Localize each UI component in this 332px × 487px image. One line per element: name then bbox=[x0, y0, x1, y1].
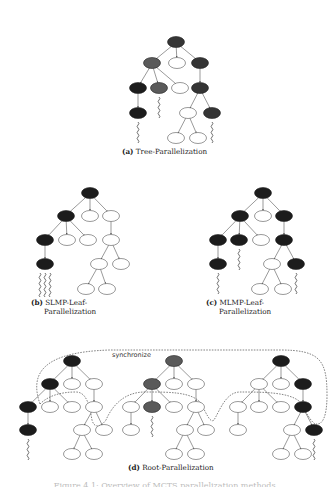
rollout-squiggle bbox=[44, 273, 46, 297]
tree-edge bbox=[283, 435, 290, 449]
tree-node-white bbox=[275, 284, 292, 295]
tree-node-white bbox=[180, 108, 197, 119]
tree-node-black bbox=[276, 235, 293, 246]
tree-node-white bbox=[188, 449, 205, 460]
caption-a-label: (a) bbox=[122, 147, 133, 156]
caption-b-title-line2: Parallelization bbox=[31, 307, 96, 316]
tree-edge bbox=[274, 269, 281, 284]
tree-node-dark bbox=[204, 108, 221, 119]
tree-edge bbox=[100, 269, 105, 284]
rollout-squiggle bbox=[217, 273, 219, 294]
tree-edge bbox=[294, 435, 301, 449]
rollout-squiggle bbox=[151, 416, 153, 437]
tree-node-white bbox=[273, 449, 290, 460]
tree-node-gray bbox=[166, 356, 183, 367]
tree-node-white bbox=[264, 259, 281, 270]
tree-node-black bbox=[210, 259, 227, 270]
tree-node-white bbox=[230, 402, 247, 413]
tree-edge bbox=[294, 412, 301, 425]
caption-c: (c) MLMP-Leaf- Parallelization bbox=[206, 298, 271, 316]
tree-node-dark bbox=[168, 37, 185, 48]
tree-node-white bbox=[273, 402, 290, 413]
tree-node-white bbox=[64, 379, 81, 390]
tree-node-gray bbox=[144, 402, 161, 413]
tree-edge bbox=[88, 269, 97, 284]
tree-node-black bbox=[20, 402, 37, 413]
tree-edge bbox=[180, 45, 197, 59]
tree-edge bbox=[262, 269, 270, 284]
tree-edge bbox=[96, 412, 102, 425]
tree-edge bbox=[53, 365, 69, 380]
tree-edge bbox=[140, 68, 149, 84]
tree-edge bbox=[93, 197, 108, 212]
tree-node-white bbox=[169, 58, 186, 69]
tree-node-white bbox=[64, 402, 81, 413]
tree-node-dark bbox=[192, 83, 209, 94]
tree-node-black bbox=[64, 356, 81, 367]
tree-edge bbox=[153, 68, 157, 83]
tree-edge bbox=[286, 245, 294, 259]
tree-node-white bbox=[103, 211, 120, 222]
caption-c-label: (c) bbox=[206, 298, 217, 307]
tree-d-left bbox=[20, 356, 113, 461]
tree-node-black bbox=[255, 188, 272, 199]
tree-d-right bbox=[230, 356, 323, 461]
synchronize-label: synchronize bbox=[112, 351, 151, 359]
tree-edge bbox=[284, 365, 300, 380]
tree-node-white bbox=[80, 235, 97, 246]
tree-edge bbox=[198, 412, 204, 425]
tree-edge bbox=[262, 365, 278, 380]
tree-c bbox=[210, 188, 305, 295]
rollout-squiggle bbox=[27, 439, 29, 460]
tree-edge bbox=[178, 118, 186, 133]
tree-edge bbox=[155, 365, 171, 380]
caption-c-title-line2: Parallelization bbox=[206, 307, 271, 316]
tree-edge bbox=[176, 435, 183, 449]
tree-edge bbox=[274, 245, 282, 259]
tree-edge bbox=[113, 245, 119, 259]
tree-node-black bbox=[37, 235, 54, 246]
tree-node-black bbox=[130, 83, 147, 94]
caption-d: (d) Root-Parallelization bbox=[128, 463, 214, 472]
tree-edge bbox=[176, 47, 177, 57]
tree-edge bbox=[239, 221, 240, 234]
tree-node-white bbox=[123, 402, 140, 413]
tree-node-white bbox=[59, 235, 76, 246]
tree-edge bbox=[84, 435, 92, 449]
tree-node-white bbox=[103, 235, 120, 246]
mcts-parallelization-figure: synchronize bbox=[0, 0, 332, 487]
tree-edge bbox=[187, 412, 194, 425]
rollout-squiggle bbox=[49, 273, 51, 297]
tree-b bbox=[37, 188, 130, 298]
tree-node-black bbox=[295, 402, 312, 413]
tree-edge bbox=[155, 388, 171, 403]
tree-node-white bbox=[190, 133, 207, 144]
figure-caption: Figure 4.1: Overview of MCTS paralleliza… bbox=[0, 481, 332, 487]
tree-edge bbox=[305, 412, 312, 425]
tree-node-white bbox=[74, 425, 91, 436]
tree-node-white bbox=[251, 379, 268, 390]
caption-b: (b) SLMP-Leaf- Parallelization bbox=[31, 298, 96, 316]
caption-a: (a) Tree-Parallelization bbox=[122, 147, 207, 156]
tree-edge bbox=[69, 220, 85, 236]
tree-node-black bbox=[82, 188, 99, 199]
tree-node-white bbox=[295, 449, 312, 460]
caption-c-title-line1: MLMP-Leaf- bbox=[219, 298, 264, 307]
tree-node-white bbox=[64, 449, 81, 460]
tree-node-white bbox=[86, 449, 103, 460]
tree-node-black bbox=[58, 211, 75, 222]
tree-node-white bbox=[91, 259, 108, 270]
tree-edge bbox=[48, 220, 63, 236]
tree-node-white bbox=[253, 235, 270, 246]
tree-node-black bbox=[20, 425, 37, 436]
tree-edge bbox=[177, 365, 193, 380]
tree-node-white bbox=[166, 379, 183, 390]
tree-a bbox=[130, 37, 221, 144]
tree-node-black bbox=[306, 425, 323, 436]
tree-node-white bbox=[188, 402, 205, 413]
caption-b-label: (b) bbox=[31, 298, 43, 307]
tree-node-black bbox=[288, 259, 305, 270]
tree-edge bbox=[69, 197, 86, 213]
tree-node-white bbox=[168, 133, 185, 144]
tree-node-dark bbox=[192, 58, 209, 69]
